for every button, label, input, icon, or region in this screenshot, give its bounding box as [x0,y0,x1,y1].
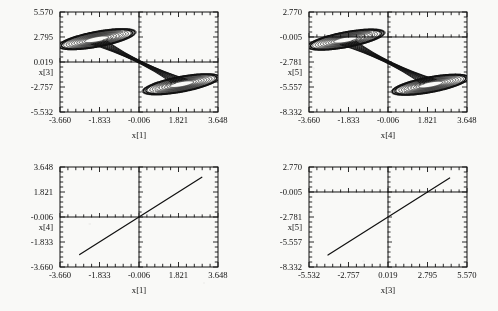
plot-panel-bottom-left: -3.660-1.833-0.0061.8213.648-3.660-1.833… [0,155,249,311]
y-tick-label: -2.781 [280,212,302,222]
y-tick-label: -8.332 [280,262,302,272]
x-tick-label: -1.833 [88,270,110,280]
x-tick-label: -0.006 [377,115,400,125]
x-tick-label: 0.019 [378,270,397,280]
y-tick-label: -5.557 [280,82,303,92]
plot-content [307,12,468,112]
y-axis-title: x[4] [39,222,53,232]
y-tick-label: 3.648 [34,162,53,172]
y-tick-label: 2.770 [283,162,302,172]
y-tick-label: -2.781 [280,57,302,67]
y-tick-label: -5.557 [280,237,303,247]
y-tick-label: -2.757 [31,82,54,92]
x-axis-title: x[1] [132,285,146,295]
y-tick-label: -3.660 [31,262,53,272]
y-tick-label: -5.532 [31,107,53,117]
x-tick-label: 3.648 [208,270,227,280]
y-axis-title: x[3] [39,67,53,77]
x-tick-label: 5.570 [457,270,476,280]
x-tick-label: 2.795 [418,270,437,280]
x-tick-label: -0.006 [128,115,151,125]
y-tick-label: 0.019 [34,57,53,67]
x-tick-label: -2.757 [337,270,360,280]
data-series [328,178,450,255]
y-tick-label: 1.821 [34,187,53,197]
x-tick-label: 3.648 [457,115,476,125]
synchronization-line [80,177,202,254]
x-tick-label: -1.833 [88,115,110,125]
x-axis-title: x[3] [381,285,395,295]
y-tick-label: 5.570 [34,7,53,17]
y-tick-label: -8.332 [280,107,302,117]
plot-content [60,167,218,267]
x-tick-label: 1.821 [169,270,188,280]
y-tick-label: 2.795 [34,32,53,42]
x-tick-label: -1.833 [337,115,359,125]
data-series [80,177,202,254]
y-tick-label: -0.005 [280,32,302,42]
plot-content [58,12,219,112]
y-axis-title: x[5] [288,67,302,77]
x-axis-title: x[1] [132,130,146,140]
x-tick-label: 1.821 [418,115,437,125]
x-tick-label: 3.648 [208,115,227,125]
plot-panel-bottom-right: -5.532-2.7570.0192.7955.570-8.332-5.557-… [249,155,498,311]
x-tick-label: 1.821 [169,115,188,125]
y-axis-title: x[5] [288,222,302,232]
plot-panel-top-left: -3.660-1.833-0.0061.8213.648-5.532-2.757… [0,0,249,155]
y-tick-label: -1.833 [31,237,53,247]
plot-panel-top-right: -3.660-1.833-0.0061.8213.648-8.332-5.557… [249,0,498,155]
x-tick-label: -0.006 [128,270,151,280]
plot-content [309,167,467,267]
y-tick-label: -0.006 [31,212,54,222]
y-tick-label: -0.005 [280,187,302,197]
y-tick-label: 2.770 [283,7,302,17]
figure-panel-grid: -3.660-1.833-0.0061.8213.648-5.532-2.757… [0,0,498,311]
synchronization-line [328,178,450,255]
x-axis-title: x[4] [381,130,395,140]
